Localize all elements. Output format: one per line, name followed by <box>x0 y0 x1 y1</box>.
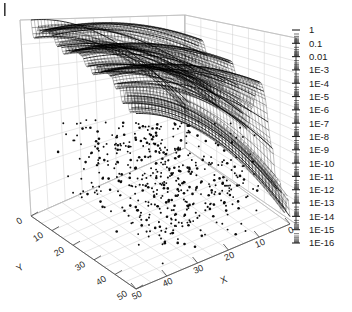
scatter-point <box>238 184 240 186</box>
scatter-point <box>187 154 189 156</box>
scatter-point <box>155 169 157 171</box>
scatter-point-outlier <box>175 219 177 221</box>
scatter-point <box>95 119 97 121</box>
z-tick-label: 1E-12 <box>309 184 334 195</box>
scatter-point <box>98 157 101 160</box>
scatter-point <box>115 148 117 150</box>
scatter-point <box>148 201 150 203</box>
scatter-point <box>212 215 215 218</box>
scatter-point <box>232 203 234 205</box>
scatter-point-outlier <box>146 231 148 233</box>
scatter-point <box>235 175 237 177</box>
scatter-point <box>174 149 176 151</box>
scatter-point <box>255 209 257 211</box>
scatter-point <box>120 181 123 184</box>
scatter-point <box>229 185 231 187</box>
scatter-point <box>129 152 131 154</box>
scatter-point <box>106 153 108 155</box>
scatter-point <box>149 151 151 153</box>
scatter-point <box>128 184 130 186</box>
scatter-point <box>162 151 165 154</box>
scatter-point <box>162 182 164 184</box>
scatter-point <box>235 156 237 158</box>
scatter-point <box>166 166 168 168</box>
scatter-point <box>252 188 254 190</box>
scatter-point <box>221 164 223 166</box>
scatter-point <box>234 233 237 236</box>
scatter-point <box>80 143 82 145</box>
scatter-point <box>159 208 161 210</box>
scatter-point <box>159 147 161 149</box>
scatter-point-outlier <box>160 212 162 214</box>
scatter-point <box>195 174 197 176</box>
scatter-point <box>148 236 150 238</box>
scatter-point <box>168 199 171 202</box>
scatter-point <box>226 162 229 165</box>
scatter-point <box>164 161 166 163</box>
scatter-point <box>80 122 82 124</box>
scatter-point <box>187 207 189 209</box>
scatter-point <box>176 242 179 245</box>
scatter-point <box>147 186 150 189</box>
scatter-point <box>136 209 139 212</box>
scatter-point-outlier <box>171 209 173 211</box>
scatter-point <box>132 222 134 224</box>
scatter-point <box>147 205 149 207</box>
scatter-point-outlier <box>191 171 193 173</box>
scatter-point <box>96 164 98 166</box>
scatter-point <box>147 129 149 131</box>
scatter-point <box>98 137 101 140</box>
scatter-point <box>97 159 99 161</box>
scatter-point <box>187 189 189 191</box>
scatter-point <box>94 192 96 194</box>
scatter-point-outlier <box>186 209 188 211</box>
z-tick-label: 1E-3 <box>309 64 329 75</box>
scatter-point <box>210 189 213 192</box>
scatter-point-outlier <box>160 176 162 178</box>
z-tick-label: 1E-8 <box>309 131 329 142</box>
scatter-point <box>97 162 99 164</box>
scatter-point <box>155 150 158 153</box>
scatter-point <box>177 238 179 240</box>
scatter-point <box>183 181 185 183</box>
scatter-point <box>173 205 176 208</box>
scatter-point <box>236 184 239 187</box>
scatter-point <box>155 131 158 134</box>
scatter-point <box>111 134 113 136</box>
scatter-point <box>142 145 144 147</box>
scatter-point <box>146 141 149 144</box>
scatter-point <box>97 142 100 145</box>
scatter-point <box>237 176 239 178</box>
scatter-point <box>183 199 185 201</box>
scatter-point <box>183 192 186 195</box>
scatter-point-outlier <box>140 212 142 214</box>
scatter-point <box>127 164 129 166</box>
scatter-point <box>99 200 102 203</box>
scatter-point <box>135 206 138 209</box>
scatter-point <box>125 145 127 147</box>
scatter-point <box>159 152 161 154</box>
scatter-point <box>220 135 222 137</box>
scatter-point <box>182 164 184 166</box>
scatter-point <box>156 127 159 130</box>
scatter-point <box>153 191 155 193</box>
scatter-point-outlier <box>139 184 141 186</box>
scatter-point <box>243 178 246 181</box>
scatter-point <box>145 177 147 179</box>
scatter-point <box>186 166 189 169</box>
scatter-point-outlier <box>181 225 183 227</box>
scatter-point <box>242 136 244 138</box>
scatter-point <box>163 187 166 190</box>
scatter-point <box>144 126 146 128</box>
scatter-point <box>148 125 150 127</box>
scatter-point <box>106 143 108 145</box>
scatter-point <box>140 140 143 143</box>
scatter-point <box>208 162 210 164</box>
scatter-point <box>218 192 221 195</box>
scatter-point <box>239 127 241 129</box>
scatter-point <box>139 216 141 218</box>
scatter-point <box>237 200 240 203</box>
scatter-point-outlier <box>171 218 173 220</box>
scatter-point-outlier <box>128 215 130 217</box>
scatter-point <box>135 186 137 188</box>
